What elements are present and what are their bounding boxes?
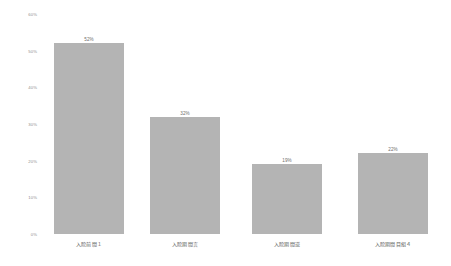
bar[interactable] xyxy=(150,117,220,234)
x-axis-category-label: 入院期間逆 xyxy=(252,241,322,248)
y-axis-tick: 10% xyxy=(3,195,37,200)
x-axis-category-label: 入院期間言 xyxy=(150,241,220,248)
y-axis-tick: 30% xyxy=(3,122,37,127)
bar[interactable] xyxy=(358,153,428,234)
x-axis: 入院前間１ 入院期間言 入院期間逆 入院期間目組４ xyxy=(46,236,451,256)
bar[interactable] xyxy=(54,43,124,234)
y-axis-tick: 20% xyxy=(3,158,37,163)
y-axis: 60% 50% 40% 30% 20% 10% 0% xyxy=(0,0,46,266)
bar-group: 19% xyxy=(252,14,322,234)
bar[interactable] xyxy=(252,164,322,234)
y-axis-tick: 60% xyxy=(3,12,37,17)
bar-group: 22% xyxy=(358,14,428,234)
y-axis-tick: 50% xyxy=(3,48,37,53)
bar-chart: 60% 50% 40% 30% 20% 10% 0% 52% 32% 19% 2… xyxy=(0,0,451,266)
x-axis-category-label: 入院期間目組４ xyxy=(353,241,433,248)
plot-area: 52% 32% 19% 22% xyxy=(46,14,451,234)
x-axis-category-label: 入院前間１ xyxy=(54,241,124,248)
y-axis-tick: 0% xyxy=(3,232,37,237)
bar-group: 52% xyxy=(54,14,124,234)
y-axis-tick: 40% xyxy=(3,85,37,90)
bar-group: 32% xyxy=(150,14,220,234)
